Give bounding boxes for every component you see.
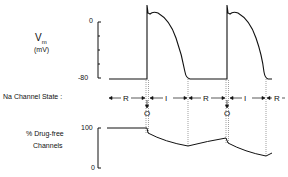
vm-axis	[98, 22, 101, 78]
drug-free-axis	[98, 128, 101, 168]
state-o2: O	[224, 109, 230, 118]
action-potential-trace	[109, 5, 272, 79]
state-i1: I	[165, 94, 167, 103]
state-r3: R	[274, 94, 280, 103]
state-boundary-lines	[146, 79, 266, 157]
state-o1: O	[144, 109, 150, 118]
drug-free-trace	[107, 128, 272, 156]
state-i2: I	[244, 94, 246, 103]
state-r1: R	[123, 94, 129, 103]
diagram-canvas: R I R I R O O	[0, 0, 288, 177]
state-r2: R	[203, 94, 209, 103]
state-arrows	[109, 97, 285, 109]
